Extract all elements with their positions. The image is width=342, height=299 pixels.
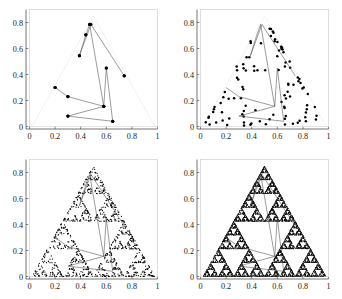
svg-text:0.2: 0.2 xyxy=(50,132,60,141)
svg-text:0.6: 0.6 xyxy=(184,195,194,204)
svg-text:0: 0 xyxy=(190,273,194,282)
scatter-points xyxy=(203,166,326,277)
svg-text:0: 0 xyxy=(190,123,194,132)
svg-text:0.4: 0.4 xyxy=(76,132,86,141)
svg-text:0.4: 0.4 xyxy=(247,132,257,141)
plot-panel-4: 00.20.40.60.8100.20.40.60.8 xyxy=(171,150,342,299)
svg-text:0.8: 0.8 xyxy=(127,132,137,141)
svg-text:0.4: 0.4 xyxy=(13,71,23,80)
svg-text:0.8: 0.8 xyxy=(127,282,137,291)
svg-text:1: 1 xyxy=(155,132,159,141)
plot-panel-2: 00.20.40.60.8100.20.40.60.8 xyxy=(171,0,342,149)
iteration-path xyxy=(55,24,124,121)
svg-text:0.2: 0.2 xyxy=(184,247,194,256)
chart-panel-3: 00.20.40.60.8100.20.40.60.8 xyxy=(0,150,171,299)
svg-text:0.4: 0.4 xyxy=(13,221,23,230)
svg-text:0.4: 0.4 xyxy=(76,282,86,291)
svg-text:0: 0 xyxy=(198,282,202,291)
svg-text:0.6: 0.6 xyxy=(101,282,111,291)
figure-grid: 00.20.40.60.8100.20.40.60.8 00.20.40.60.… xyxy=(0,0,342,299)
svg-text:0.6: 0.6 xyxy=(101,132,111,141)
svg-text:0: 0 xyxy=(19,273,23,282)
scatter-points xyxy=(33,167,155,277)
svg-text:0.6: 0.6 xyxy=(184,45,194,54)
plot-panel-1: 00.20.40.60.8100.20.40.60.8 xyxy=(0,0,171,149)
svg-text:0.6: 0.6 xyxy=(272,132,282,141)
svg-text:0.8: 0.8 xyxy=(13,169,23,178)
svg-text:0.6: 0.6 xyxy=(13,195,23,204)
svg-text:0.4: 0.4 xyxy=(184,71,194,80)
svg-text:0: 0 xyxy=(19,123,23,132)
svg-text:0.2: 0.2 xyxy=(50,282,60,291)
svg-text:0.2: 0.2 xyxy=(13,247,23,256)
svg-text:0.4: 0.4 xyxy=(247,282,257,291)
svg-text:0.8: 0.8 xyxy=(184,169,194,178)
svg-text:1: 1 xyxy=(326,282,330,291)
iteration-path xyxy=(55,174,124,271)
chart-panel-2: 00.20.40.60.8100.20.40.60.8 xyxy=(171,0,342,149)
svg-text:0.2: 0.2 xyxy=(184,97,194,106)
svg-text:0: 0 xyxy=(27,282,31,291)
svg-text:0: 0 xyxy=(198,132,202,141)
svg-text:0.6: 0.6 xyxy=(272,282,282,291)
svg-text:0.8: 0.8 xyxy=(184,19,194,28)
svg-text:0.8: 0.8 xyxy=(298,132,308,141)
svg-text:0.2: 0.2 xyxy=(221,132,231,141)
iteration-path xyxy=(226,174,295,271)
chart-panel-1: 00.20.40.60.8100.20.40.60.8 xyxy=(0,0,171,149)
svg-text:0.6: 0.6 xyxy=(13,45,23,54)
svg-text:0.4: 0.4 xyxy=(184,221,194,230)
svg-text:0: 0 xyxy=(27,132,31,141)
svg-text:0.8: 0.8 xyxy=(13,19,23,28)
plot-panel-3: 00.20.40.60.8100.20.40.60.8 xyxy=(0,150,171,299)
svg-text:0.2: 0.2 xyxy=(13,97,23,106)
svg-text:0.2: 0.2 xyxy=(221,282,231,291)
svg-text:1: 1 xyxy=(155,282,159,291)
svg-text:1: 1 xyxy=(326,132,330,141)
scatter-points xyxy=(205,27,318,126)
svg-text:0.8: 0.8 xyxy=(298,282,308,291)
iterate-markers xyxy=(54,23,126,123)
chart-panel-4: 00.20.40.60.8100.20.40.60.8 xyxy=(171,150,342,299)
